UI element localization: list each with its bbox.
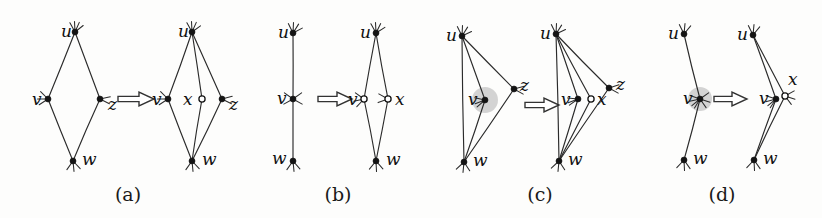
node-label-w: w <box>473 150 488 170</box>
node-label-w: w <box>272 148 287 168</box>
node-v-open <box>361 96 367 102</box>
node-label-u: u <box>61 21 72 41</box>
graph-d-before: uvw <box>668 23 712 171</box>
node-label-v: v <box>759 88 769 108</box>
node-z-solid <box>219 96 225 102</box>
node-label-v: v <box>277 88 287 108</box>
edge-u-z <box>192 32 222 99</box>
node-label-x: x <box>788 69 798 89</box>
node-label-z: z <box>107 94 118 114</box>
node-label-z: z <box>615 74 626 94</box>
node-u-solid <box>189 29 195 35</box>
node-w-solid <box>373 158 379 164</box>
node-label-v: v <box>152 89 162 109</box>
edge-u-v <box>364 33 376 99</box>
node-label-v: v <box>683 88 693 108</box>
node-w-solid <box>751 157 757 163</box>
graph-a-before: uvzw <box>32 21 118 171</box>
node-label-w: w <box>202 149 217 169</box>
node-label-w: w <box>763 148 778 168</box>
node-label-x: x <box>395 89 405 109</box>
node-label-w: w <box>693 148 708 168</box>
panel-caption-a: (a) <box>115 183 141 205</box>
node-z-solid <box>511 86 517 92</box>
rewrite-arrow-b <box>318 92 352 106</box>
edge-u-z <box>462 36 514 89</box>
graph-d-after: uvxw <box>737 24 798 171</box>
node-label-u: u <box>178 21 189 41</box>
node-u-solid <box>373 30 379 36</box>
graph-a-after: uvxzw <box>152 21 239 171</box>
node-label-x: x <box>597 89 607 109</box>
graph-b-after: uvxw <box>348 22 405 172</box>
edge-u-v <box>48 32 75 99</box>
implies-arrow-icon <box>525 98 559 112</box>
node-x-open <box>385 96 391 102</box>
graph-c-before: uvzw <box>446 25 530 172</box>
node-v-solid <box>290 96 296 102</box>
node-u-solid <box>459 33 465 39</box>
node-label-u: u <box>540 23 551 43</box>
panel-caption-c: (c) <box>527 183 552 205</box>
edge-u-w <box>462 36 464 162</box>
node-label-w: w <box>386 149 401 169</box>
node-u-solid <box>290 30 296 36</box>
edge-u-x <box>753 35 785 96</box>
edge-v-w <box>48 99 73 161</box>
rewrite-arrow-a <box>118 92 154 106</box>
rewrite-arrow-d <box>714 92 747 106</box>
node-w-solid <box>290 158 296 164</box>
node-label-v: v <box>468 89 478 109</box>
implies-arrow-icon <box>318 92 352 106</box>
node-v-solid <box>697 96 703 102</box>
implies-arrow-icon <box>714 92 747 106</box>
node-label-x: x <box>183 89 193 109</box>
node-v-solid <box>165 96 171 102</box>
edge-u-x <box>376 33 388 99</box>
implies-arrow-icon <box>118 92 154 106</box>
edge-v-w <box>364 99 376 161</box>
node-label-v: v <box>32 89 42 109</box>
node-w-solid <box>556 158 562 164</box>
node-label-w: w <box>82 149 97 169</box>
graph-rewrite-figure: uvzwuvxzw(a)uvwuvxw(b)uvzwuvxzw(c)uvwuvx… <box>0 0 822 218</box>
graph-b-before: uvw <box>272 22 302 171</box>
node-z-solid <box>606 85 612 91</box>
node-w-solid <box>70 158 76 164</box>
node-label-v: v <box>561 89 571 109</box>
node-x-open <box>782 93 788 99</box>
node-label-u: u <box>668 23 679 43</box>
node-label-v: v <box>348 89 358 109</box>
node-label-z: z <box>228 94 239 114</box>
node-u-solid <box>72 29 78 35</box>
node-x-open <box>199 96 205 102</box>
node-label-u: u <box>278 22 289 42</box>
panel-caption-d: (d) <box>709 183 736 205</box>
node-v-solid <box>773 96 779 102</box>
panel-caption-b: (b) <box>325 183 352 205</box>
figure-container: uvzwuvxzw(a)uvwuvxw(b)uvzwuvxzw(c)uvwuvx… <box>0 0 822 218</box>
node-w-solid <box>681 157 687 163</box>
node-u-solid <box>553 31 559 37</box>
edge-u-z <box>75 32 100 99</box>
node-label-u: u <box>737 24 748 44</box>
node-label-w: w <box>568 149 583 169</box>
node-u-solid <box>750 32 756 38</box>
graph-c-after: uvxzw <box>540 23 626 171</box>
node-w-solid <box>461 159 467 165</box>
node-label-u: u <box>360 22 371 42</box>
node-v-solid <box>45 96 51 102</box>
rewrite-arrow-c <box>525 98 559 112</box>
edge-u-z <box>556 34 609 88</box>
edge-u-w <box>556 34 559 161</box>
node-w-solid <box>189 158 195 164</box>
node-x-open <box>588 96 594 102</box>
node-u-solid <box>681 31 687 37</box>
node-label-u: u <box>446 25 457 45</box>
node-v-solid <box>482 97 488 103</box>
node-v-solid <box>575 96 581 102</box>
node-label-z: z <box>519 75 530 95</box>
node-z-solid <box>97 96 103 102</box>
